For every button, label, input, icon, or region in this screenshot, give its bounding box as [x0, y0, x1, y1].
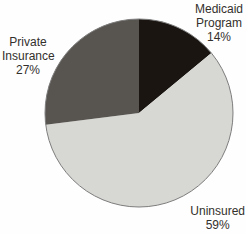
label-medicaid-program: Medicaid Program 14% — [195, 2, 243, 44]
label-private-insurance: Private Insurance 27% — [2, 35, 54, 77]
pie-chart-figure: Medicaid Program 14% Private Insurance 2… — [0, 0, 246, 234]
label-uninsured: Uninsured 59% — [190, 204, 245, 232]
slice-private-insurance — [45, 19, 139, 125]
